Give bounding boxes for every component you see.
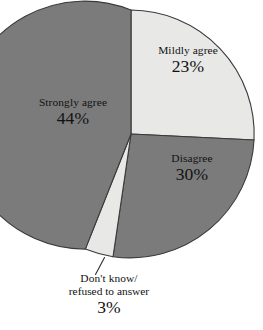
slice-label-mildly-agree-value: 23% (136, 57, 240, 76)
slice-label-dont-know-category-line2: refused to answer (33, 285, 185, 298)
slice-label-dont-know-category-line1: Don't know/ (33, 272, 185, 285)
slice-label-disagree-value: 30% (146, 165, 238, 184)
slice-label-strongly-agree: Strongly agree 44% (18, 96, 128, 128)
slice-label-disagree: Disagree 30% (146, 152, 238, 184)
slice-label-strongly-agree-value: 44% (18, 109, 128, 128)
slice-label-mildly-agree-category: Mildly agree (136, 44, 240, 56)
slice-label-disagree-category: Disagree (146, 152, 238, 164)
slice-label-dont-know-value: 3% (33, 298, 185, 318)
slice-label-dont-know: Don't know/ refused to answer 3% (33, 272, 185, 317)
slice-label-mildly-agree: Mildly agree 23% (136, 44, 240, 76)
pie-chart-figure: Mildly agree 23% Strongly agree 44% Disa… (0, 0, 263, 330)
slice-label-strongly-agree-category: Strongly agree (18, 96, 128, 108)
